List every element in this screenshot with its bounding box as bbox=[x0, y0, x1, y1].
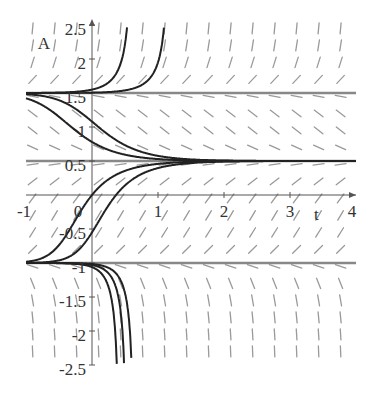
a-tick-label: 2 bbox=[78, 54, 87, 73]
slope-mark bbox=[252, 329, 253, 340]
t-tick-label: -1 bbox=[17, 202, 31, 221]
slope-mark bbox=[32, 329, 33, 340]
slope-mark bbox=[98, 329, 99, 340]
t-tick-label: 4 bbox=[348, 202, 357, 221]
y-axis-label: A bbox=[38, 34, 51, 53]
slope-field-chart: 2.521.510.5-0.5-1-1.5-2-2.5-101234tA bbox=[0, 0, 376, 400]
a-tick-label: 1 bbox=[78, 122, 87, 141]
a-tick-label: -2 bbox=[72, 326, 86, 345]
t-tick-label: 0 bbox=[74, 202, 83, 221]
a-tick-label: -2.5 bbox=[59, 360, 86, 379]
slope-mark bbox=[340, 329, 341, 340]
t-tick-label: 3 bbox=[286, 202, 295, 221]
slope-mark bbox=[296, 329, 297, 340]
slope-mark bbox=[230, 329, 231, 340]
a-tick-label: 2.5 bbox=[65, 20, 86, 39]
a-tick-label: -0.5 bbox=[59, 224, 86, 243]
a-tick-label: 1.5 bbox=[65, 88, 86, 107]
t-tick-label: 2 bbox=[220, 202, 229, 221]
a-tick-label: 0.5 bbox=[65, 156, 86, 175]
slope-mark bbox=[120, 329, 121, 340]
slope-mark bbox=[208, 329, 209, 340]
slope-mark bbox=[186, 329, 187, 340]
slope-mark bbox=[318, 329, 319, 340]
slope-mark bbox=[274, 329, 275, 340]
a-tick-label: -1 bbox=[72, 258, 86, 277]
t-tick-label: 1 bbox=[154, 202, 163, 221]
slope-mark bbox=[164, 329, 165, 340]
a-tick-label: -1.5 bbox=[59, 292, 86, 311]
slope-mark bbox=[54, 329, 55, 340]
x-axis-label: t bbox=[314, 205, 319, 224]
slope-mark bbox=[142, 329, 143, 340]
